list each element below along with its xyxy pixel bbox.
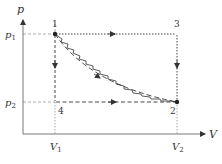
tick-labels: p1 p2 V1 V2: [5, 29, 184, 154]
v2-label: V2: [172, 141, 184, 154]
point-2: [175, 100, 179, 104]
x-axis-label: V: [209, 128, 218, 141]
process-paths: [55, 34, 177, 102]
point-1-label: 1: [52, 19, 58, 29]
point-1: [53, 32, 57, 36]
point-3-label: 3: [174, 19, 180, 29]
pv-diagram: p V p1 p2 V1 V2: [0, 0, 222, 164]
p2-label: p2: [5, 97, 16, 110]
guide-lines: [23, 24, 177, 134]
path-1-2-curve: [55, 34, 177, 102]
point-2-label: 2: [170, 106, 176, 116]
axes: p V: [17, 3, 218, 141]
y-axis-label: p: [17, 3, 24, 16]
p1-label: p1: [5, 29, 16, 42]
v1-label: V1: [50, 141, 62, 154]
path-1-2-zigzag: [55, 34, 177, 102]
point-4-label: 4: [58, 106, 64, 116]
